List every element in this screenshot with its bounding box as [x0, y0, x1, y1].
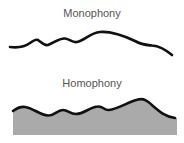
monophony-panel: [10, 32, 172, 55]
homophony-label: Homophony: [0, 77, 184, 90]
homophony-panel: [13, 99, 177, 135]
texture-diagram: [0, 0, 184, 143]
monophony-melody-line: [10, 32, 172, 55]
